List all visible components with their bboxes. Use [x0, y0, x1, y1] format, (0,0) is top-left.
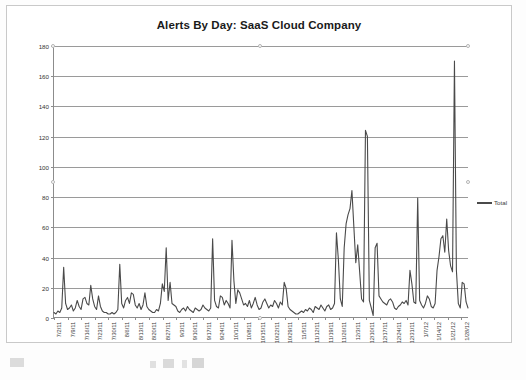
- x-tick-label: 9/24/11: [219, 322, 225, 340]
- x-tick-label: 10/22/11: [274, 322, 280, 343]
- x-tick-label: 11/19/11: [328, 322, 334, 343]
- x-tick-label: 10/15/11: [260, 322, 266, 343]
- x-tick-label: 12/17/11: [382, 322, 388, 343]
- x-tick-mark: [339, 317, 340, 320]
- y-tick-label: 40: [42, 254, 49, 261]
- x-tick-mark: [393, 317, 394, 320]
- x-tick-mark: [95, 317, 96, 320]
- x-tick-mark: [285, 317, 286, 320]
- chart-frame[interactable]: Alerts By Day: SaaS Cloud Company 020406…: [6, 5, 512, 343]
- scan-smudge: [10, 358, 24, 367]
- x-tick-label: 1/28/12: [464, 322, 470, 341]
- x-tick-mark: [461, 317, 462, 320]
- x-tick-label: 8/20/11: [151, 322, 157, 340]
- x-tick-label: 11/26/11: [341, 322, 347, 343]
- x-tick-mark: [353, 317, 354, 320]
- y-tick-label: 80: [42, 194, 49, 201]
- selection-handle-top-center[interactable]: [258, 44, 262, 48]
- x-tick-mark: [448, 317, 449, 320]
- y-tick-label: 20: [42, 284, 49, 291]
- x-tick-label: 9/3/11: [179, 322, 185, 337]
- x-tick-mark: [298, 317, 299, 320]
- y-tick-label: 180: [39, 43, 49, 50]
- x-tick-mark: [230, 317, 231, 320]
- x-tick-label: 10/8/11: [246, 322, 252, 340]
- x-tick-mark: [122, 317, 123, 320]
- selection-handle-top-left[interactable]: [51, 44, 55, 48]
- x-tick-label: 7/2/11: [56, 322, 62, 337]
- chart-title: Alerts By Day: SaaS Cloud Company: [7, 19, 511, 31]
- x-tick-mark: [380, 317, 381, 320]
- x-tick-mark: [271, 317, 272, 320]
- scan-smudge: [182, 360, 187, 368]
- x-tick-mark: [434, 317, 435, 320]
- x-tick-mark: [68, 317, 69, 320]
- x-tick-label: 8/13/11: [138, 322, 144, 340]
- scan-artifacts: [0, 352, 526, 378]
- x-tick-label: 1/21/12: [450, 322, 456, 341]
- x-tick-mark: [81, 317, 82, 320]
- scan-smudge: [192, 358, 204, 368]
- x-tick-mark: [163, 317, 164, 320]
- x-tick-mark: [190, 317, 191, 320]
- scan-smudge: [150, 361, 156, 368]
- x-tick-label: 12/31/11: [409, 322, 415, 343]
- x-tick-mark: [217, 317, 218, 320]
- x-tick-label: 9/17/11: [206, 322, 212, 340]
- scan-smudge: [163, 359, 174, 368]
- selection-handle-middle-right[interactable]: [466, 180, 470, 184]
- x-tick-label: 12/24/11: [396, 322, 402, 343]
- x-tick-label: 10/29/11: [287, 322, 293, 343]
- scanned-page: Alerts By Day: SaaS Cloud Company 020406…: [0, 0, 526, 380]
- x-tick-mark: [203, 317, 204, 320]
- x-tick-label: 12/3/11: [355, 322, 361, 340]
- x-tick-mark: [421, 317, 422, 320]
- legend-line-swatch: [477, 202, 492, 204]
- x-tick-label: 11/12/11: [314, 322, 320, 343]
- x-tick-label: 7/16/11: [84, 322, 90, 340]
- x-tick-mark: [312, 317, 313, 320]
- y-tick-label: 120: [39, 133, 49, 140]
- y-tick-label: 60: [42, 224, 49, 231]
- y-tick-label: 100: [39, 163, 49, 170]
- x-tick-mark: [149, 317, 150, 320]
- x-tick-label: 1/14/12: [436, 322, 442, 341]
- y-tick-label: 160: [39, 73, 49, 80]
- x-tick-label: 7/9/11: [70, 322, 76, 337]
- x-tick-mark: [135, 317, 136, 320]
- x-tick-mark: [244, 317, 245, 320]
- x-tick-label: 11/5/11: [301, 322, 307, 340]
- x-tick-label: 9/10/11: [192, 322, 198, 340]
- plot-wrapper: 020406080100120140160180 7/2/117/9/117/1…: [53, 46, 468, 318]
- x-tick-label: 12/10/11: [369, 322, 375, 343]
- chart-legend[interactable]: Total: [477, 199, 507, 206]
- x-tick-label: 1/7/12: [423, 322, 429, 338]
- selection-handle-middle-left[interactable]: [51, 180, 55, 184]
- x-tick-label: 7/30/11: [111, 322, 117, 340]
- x-tick-label: 10/1/11: [233, 322, 239, 340]
- y-tick-label: 0: [46, 315, 49, 322]
- selection-handle-bottom-center[interactable]: [258, 316, 262, 320]
- x-tick-label: 8/27/11: [165, 322, 171, 340]
- x-tick-mark: [366, 317, 367, 320]
- y-tick-label: 140: [39, 103, 49, 110]
- x-tick-mark: [108, 317, 109, 320]
- plot-area[interactable]: 020406080100120140160180 7/2/117/9/117/1…: [53, 46, 468, 318]
- legend-label-total: Total: [494, 199, 507, 206]
- x-tick-label: 7/23/11: [97, 322, 103, 340]
- x-tick-mark: [176, 317, 177, 320]
- selection-handle-top-right[interactable]: [466, 44, 470, 48]
- x-tick-label: 8/6/11: [124, 322, 130, 337]
- x-tick-mark: [407, 317, 408, 320]
- x-tick-mark: [325, 317, 326, 320]
- series-total-line: [54, 46, 468, 317]
- x-tick-mark: [54, 317, 55, 320]
